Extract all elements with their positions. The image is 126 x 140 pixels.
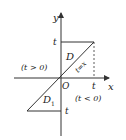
region-d1-subscript: 1 (51, 100, 55, 107)
region-diagram: y x O t t t t=x D (t > 0) D 1 (t < 0) (0, 0, 126, 140)
lower-condition-label: (t < 0) (75, 94, 101, 103)
y-axis-label: y (52, 12, 59, 23)
region-d-label: D (65, 51, 74, 62)
bottom-t-label: t (65, 106, 69, 116)
origin-label: O (62, 81, 70, 91)
diagonal-label: t=x (74, 60, 89, 75)
x-axis-t-label: t (92, 81, 96, 91)
x-axis-label: x (108, 81, 114, 92)
upper-condition-label: (t > 0) (21, 63, 47, 72)
top-t-label: t (53, 37, 57, 47)
region-d1-label: D (42, 94, 51, 105)
